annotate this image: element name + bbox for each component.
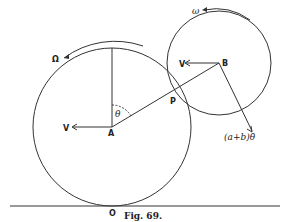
omega-label: Ω xyxy=(52,55,59,64)
velocity-b-label: V xyxy=(179,60,186,69)
label-b: B xyxy=(222,59,228,68)
omega-arrowhead-icon xyxy=(64,54,69,59)
omega-rotation-arrow xyxy=(64,41,143,58)
small-omega-rotation-arrow xyxy=(204,9,250,20)
label-p: P xyxy=(170,97,176,106)
figure-caption: Fig. 69. xyxy=(124,211,162,221)
relative-velocity-arrow xyxy=(219,63,252,131)
velocity-a-label: V xyxy=(63,124,70,133)
small-omega-label: ω xyxy=(192,6,200,16)
small-omega-arrowhead-icon xyxy=(202,7,207,12)
label-o: O xyxy=(109,209,116,218)
center-line-ab xyxy=(112,63,219,127)
diagram-canvas: Ω ω A B P O θ V V (a+b)θ̇ Fig. 69. xyxy=(0,0,283,222)
label-a: A xyxy=(108,129,115,138)
relative-velocity-label: (a+b)θ̇ xyxy=(224,132,256,142)
theta-label: θ xyxy=(115,109,121,119)
